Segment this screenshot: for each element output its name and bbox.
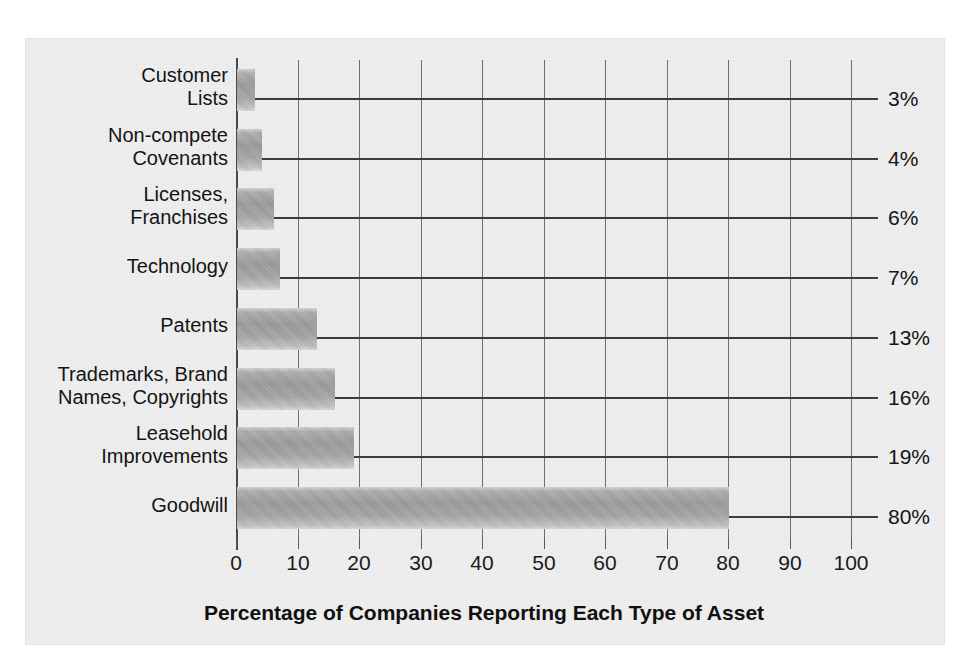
gridline-60 bbox=[605, 60, 606, 538]
leader-line bbox=[317, 337, 878, 339]
bar bbox=[237, 308, 317, 350]
bar bbox=[237, 129, 262, 171]
category-label: Technology bbox=[127, 255, 228, 278]
leader-line bbox=[255, 98, 878, 100]
tick-mark-60 bbox=[605, 538, 606, 549]
x-tick-label-100: 100 bbox=[821, 551, 881, 575]
tick-mark-80 bbox=[728, 538, 729, 549]
x-tick-label-70: 70 bbox=[637, 551, 697, 575]
category-label: Patents bbox=[160, 314, 228, 337]
leader-line bbox=[274, 217, 878, 219]
category-label: Licenses, Franchises bbox=[130, 183, 228, 229]
x-tick-label-50: 50 bbox=[514, 551, 574, 575]
tick-mark-100 bbox=[851, 538, 852, 549]
leader-line bbox=[335, 397, 878, 399]
x-tick-label-80: 80 bbox=[698, 551, 758, 575]
tick-mark-20 bbox=[359, 538, 360, 549]
tick-mark-70 bbox=[667, 538, 668, 549]
bar bbox=[237, 487, 729, 529]
tick-mark-10 bbox=[298, 538, 299, 549]
bar bbox=[237, 427, 354, 469]
category-label: Customer Lists bbox=[141, 64, 228, 110]
data-label: 6% bbox=[888, 206, 918, 230]
category-label: Trademarks, Brand Names, Copyrights bbox=[58, 363, 228, 409]
x-tick-label-0: 0 bbox=[206, 551, 266, 575]
tick-mark-90 bbox=[790, 538, 791, 549]
gridline-30 bbox=[421, 60, 422, 538]
data-label: 19% bbox=[888, 445, 930, 469]
leader-line bbox=[729, 516, 878, 518]
gridline-20 bbox=[359, 60, 360, 538]
leader-line bbox=[280, 277, 878, 279]
gridline-80 bbox=[728, 60, 729, 538]
data-label: 3% bbox=[888, 87, 918, 111]
bar bbox=[237, 248, 280, 290]
data-label: 13% bbox=[888, 326, 930, 350]
x-tick-label-30: 30 bbox=[391, 551, 451, 575]
gridline-70 bbox=[667, 60, 668, 538]
tick-mark-30 bbox=[421, 538, 422, 549]
category-label: Leasehold Improvements bbox=[101, 422, 228, 468]
bar bbox=[237, 368, 335, 410]
data-label: 80% bbox=[888, 505, 930, 529]
chart-figure: 0102030405060708090100 3%4%6%7%13%16%19%… bbox=[0, 0, 968, 663]
gridline-50 bbox=[544, 60, 545, 538]
gridline-90 bbox=[790, 60, 791, 538]
data-label: 16% bbox=[888, 386, 930, 410]
x-axis-title: Percentage of Companies Reporting Each T… bbox=[0, 601, 968, 625]
gridline-100 bbox=[851, 60, 852, 538]
gridline-40 bbox=[482, 60, 483, 538]
x-tick-label-60: 60 bbox=[575, 551, 635, 575]
leader-line bbox=[354, 456, 878, 458]
tick-mark-0 bbox=[236, 538, 237, 549]
leader-line bbox=[262, 158, 878, 160]
x-tick-label-10: 10 bbox=[268, 551, 328, 575]
x-tick-label-20: 20 bbox=[329, 551, 389, 575]
x-tick-label-40: 40 bbox=[452, 551, 512, 575]
tick-mark-50 bbox=[544, 538, 545, 549]
tick-mark-40 bbox=[482, 538, 483, 549]
bar bbox=[237, 69, 255, 111]
bar bbox=[237, 188, 274, 230]
x-tick-label-90: 90 bbox=[760, 551, 820, 575]
category-label: Non-compete Covenants bbox=[108, 124, 228, 170]
data-label: 4% bbox=[888, 147, 918, 171]
data-label: 7% bbox=[888, 266, 918, 290]
category-label: Goodwill bbox=[151, 494, 228, 517]
